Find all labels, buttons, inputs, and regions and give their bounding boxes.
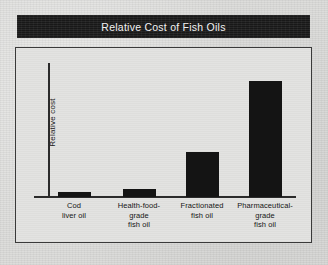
plot-area: Relative cost Cod liver oil Health-food-… [16, 48, 313, 244]
chart-title: Relative Cost of Fish Oils [101, 21, 225, 33]
tick-line-2: liver oil [37, 211, 111, 221]
bar-cod-liver-oil [58, 192, 91, 197]
chart-title-banner: Relative Cost of Fish Oils [17, 15, 310, 38]
tick-line-1: Cod [37, 201, 111, 211]
x-tick-label-pharmaceutical-grade-fish-oil: Pharmaceutical- grade fish oil [228, 201, 302, 230]
bar-fractionated-fish-oil [186, 152, 219, 197]
bar-pharmaceutical-grade-fish-oil [249, 81, 282, 197]
tick-line-3: fish oil [228, 220, 302, 230]
tick-line-3: fish oil [102, 220, 176, 230]
tick-line-2: grade [228, 211, 302, 221]
x-tick-label-cod-liver-oil: Cod liver oil [37, 201, 111, 220]
tick-line-1: Pharmaceutical- [228, 201, 302, 211]
y-axis-line [48, 63, 50, 197]
bar-health-food-grade-fish-oil [123, 189, 156, 197]
chart-plot-panel: Relative cost Cod liver oil Health-food-… [15, 47, 312, 243]
